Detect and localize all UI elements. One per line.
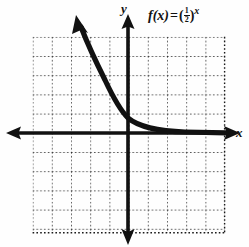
- x-axis-label: x: [236, 126, 243, 139]
- y-axis-label: y: [121, 2, 127, 15]
- fraction-denominator: 2: [184, 16, 190, 24]
- function-equation-label: f(x)=(12)x: [148, 6, 199, 25]
- equals-sign: =: [169, 8, 179, 23]
- graph-canvas: [0, 0, 249, 247]
- exponential-decay-graph-figure: y x f(x)=(12)x: [0, 0, 249, 247]
- exponent: x: [194, 5, 199, 16]
- function-name: f(x): [148, 8, 169, 23]
- one-half-fraction: 12: [184, 7, 190, 25]
